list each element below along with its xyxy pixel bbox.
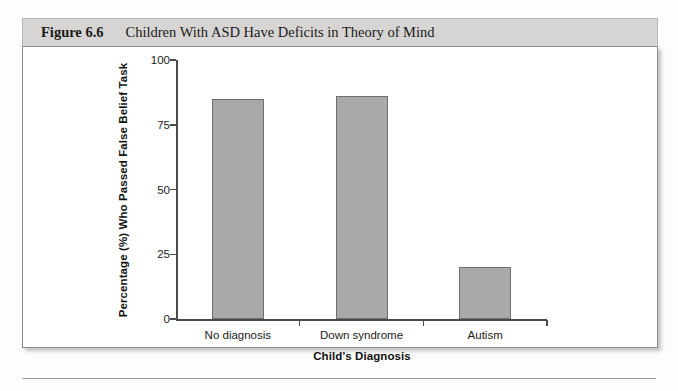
page-rule [22, 378, 656, 379]
y-tick-label: 100 [136, 54, 170, 66]
x-axis-title: Child's Diagnosis [313, 350, 411, 362]
bar [336, 96, 388, 319]
y-tick-mark [170, 254, 176, 256]
x-category-label: Down syndrome [320, 329, 403, 341]
y-axis-title: Percentage (%) Who Passed False Belief T… [117, 63, 129, 318]
y-tick-label: 75 [136, 119, 170, 131]
x-category-label: No diagnosis [205, 329, 271, 341]
x-tick-mark [546, 320, 548, 326]
y-tick-mark [170, 59, 176, 61]
bar [212, 99, 264, 319]
y-tick-mark [170, 318, 176, 320]
bar [459, 267, 511, 319]
figure-header: Figure 6.6 Children With ASD Have Defici… [22, 18, 658, 46]
y-tick-label: 50 [136, 184, 170, 196]
x-axis-line [176, 319, 547, 321]
y-tick-label: 25 [136, 248, 170, 260]
x-tick-mark [299, 320, 301, 326]
figure-body: 0255075100 No diagnosisDown syndromeAuti… [22, 46, 658, 348]
x-tick-mark [423, 320, 425, 326]
y-tick-label: 0 [136, 313, 170, 325]
y-axis-line [176, 60, 178, 320]
figure-number: Figure 6.6 [41, 24, 104, 41]
figure-block: Figure 6.6 Children With ASD Have Defici… [22, 18, 658, 348]
y-tick-mark [170, 124, 176, 126]
bar-chart: 0255075100 No diagnosisDown syndromeAuti… [23, 47, 657, 347]
x-category-label: Autism [468, 329, 503, 341]
figure-caption: Children With ASD Have Deficits in Theor… [126, 24, 435, 41]
y-tick-mark [170, 189, 176, 191]
